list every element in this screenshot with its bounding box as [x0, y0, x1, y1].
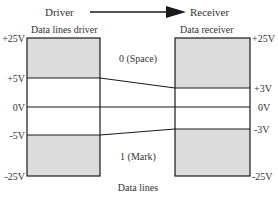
mark-state-label: 1 (Mark): [120, 151, 156, 163]
driver-label: Driver: [45, 6, 74, 18]
receiver-mark-region: [175, 129, 250, 176]
driver-box-title: Data lines driver: [31, 24, 98, 35]
receiver-level-label: +25V: [252, 33, 276, 44]
connector-lower: [100, 129, 175, 135]
receiver-level-label: 0V: [258, 102, 271, 113]
receiver-level-label: -3V: [254, 124, 270, 135]
receiver-level-label: +3V: [254, 83, 273, 94]
receiver-label: Receiver: [190, 6, 229, 18]
driver-level-label: 0V: [13, 102, 26, 113]
driver-level-label: -25V: [4, 171, 25, 182]
driver-level-label: +25V: [2, 33, 26, 44]
direction-arrow-icon: [166, 6, 186, 18]
receiver-level-label: -25V: [252, 171, 273, 182]
driver-mark-region: [27, 135, 100, 176]
receiver-space-region: [175, 38, 250, 88]
connector-upper: [100, 78, 175, 88]
driver-space-region: [27, 38, 100, 78]
rs232-voltage-diagram: Driver Receiver Data lines driver Data r…: [0, 0, 278, 215]
driver-level-label: +5V: [7, 73, 26, 84]
driver-level-label: -5V: [9, 130, 25, 141]
space-state-label: 0 (Space): [119, 53, 157, 65]
data-lines-label: Data lines: [118, 182, 158, 193]
receiver-box-title: Data receiver: [180, 24, 234, 35]
